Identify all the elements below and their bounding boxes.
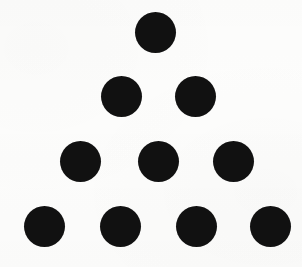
dot-2-2 [175, 76, 216, 117]
dot-4-4 [250, 206, 291, 247]
dot-1-1 [135, 12, 176, 53]
dot-4-1 [24, 206, 65, 247]
dot-3-3 [213, 141, 254, 182]
dot-4-2 [100, 206, 141, 247]
dot-3-2 [138, 141, 179, 182]
dot-4-3 [176, 206, 217, 247]
dot-pattern-figure [0, 0, 302, 267]
dot-2-1 [101, 76, 142, 117]
dot-3-1 [60, 141, 101, 182]
